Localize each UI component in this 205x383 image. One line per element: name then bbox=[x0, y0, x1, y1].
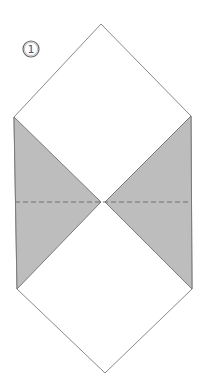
origami-step-figure: 1 bbox=[0, 0, 205, 383]
origami-diagram: 1 bbox=[0, 0, 205, 383]
step-number: 1 bbox=[28, 43, 35, 56]
